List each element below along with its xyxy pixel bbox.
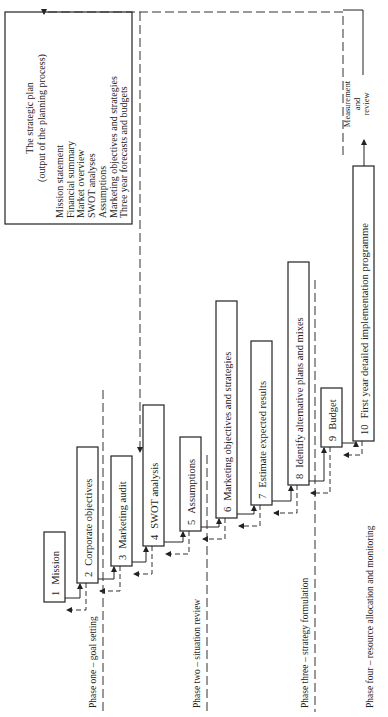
forward-connector (272, 486, 291, 501)
step-10: 10First year detailed implementation pro… (353, 166, 374, 441)
strategic-plan-item: Financial summary (65, 141, 76, 218)
step-number: 9 (327, 436, 338, 441)
step-1: 1Mission (44, 532, 65, 602)
step-6: 6Marketing objectives and strategies (216, 301, 237, 518)
step-label: 2Corporate objectives (83, 479, 94, 577)
step-5: 5Assumptions (180, 437, 201, 531)
step-number: 4 (149, 534, 160, 540)
forward-connector (342, 442, 356, 443)
step-text: Identify alternative plans and mixes (294, 317, 305, 467)
phase-label: Phase two – situation review (192, 599, 202, 708)
forward-connector (164, 532, 183, 542)
step-number: 3 (117, 555, 128, 560)
phase-label: Phase three – strategy formulation (300, 577, 310, 708)
step-number: 8 (294, 474, 305, 479)
strategic-plan-item: Market overview (75, 149, 86, 218)
step-text: Mission (50, 550, 61, 585)
strategic-plan-item: SWOT analyses (86, 153, 97, 218)
feedback-connector (274, 485, 297, 513)
step-8: 8Identify alternative plans and mixes (288, 262, 309, 485)
feedback-connector (134, 546, 152, 574)
step-label: 8Identify alternative plans and mixes (294, 317, 305, 479)
step-text: Budget (327, 399, 338, 429)
step-2: 2Corporate objectives (77, 447, 98, 583)
forward-connector (65, 584, 80, 598)
step-text: SWOT analysis (149, 463, 160, 529)
strategic-plan-title: The strategic plan (24, 82, 35, 154)
step-number: 6 (222, 507, 233, 512)
forward-connector (237, 506, 254, 514)
strategic-plan-box: The strategic plan (output of the planni… (5, 12, 132, 224)
step-label: 4SWOT analysis (149, 463, 160, 540)
step-number: 5 (186, 520, 197, 525)
step-4: 4SWOT analysis (143, 405, 164, 546)
review-line (343, 10, 363, 75)
step-9: 9Budget (321, 388, 342, 447)
feedback-connector (311, 447, 330, 493)
step-label: 3Marketing audit (117, 481, 128, 560)
step-3: 3Marketing audit (111, 456, 132, 566)
step-text: Corporate objectives (83, 479, 94, 566)
phase-label: Phase four – resource allocation and mon… (365, 525, 375, 708)
step-7: 7Estimate expected results (251, 341, 272, 505)
step-text: Assumptions (186, 459, 197, 514)
step-text: Marketing objectives and strategies (222, 352, 233, 501)
feedback-connector (67, 583, 86, 610)
forward-connector (309, 448, 324, 481)
step-label: 10First year detailed implementation pro… (359, 223, 370, 435)
strategic-plan-item: Mission statement (54, 145, 65, 218)
step-text: Estimate expected results (257, 381, 268, 488)
strategic-plan-item: Marketing objectives and strategies (108, 76, 119, 218)
feedback-connector (203, 518, 225, 539)
forward-connector (201, 519, 219, 527)
step-text: Marketing audit (117, 481, 128, 548)
measurement-label: Measurement (342, 80, 352, 127)
step-label: 7Estimate expected results (257, 381, 268, 499)
strategic-plan-item: Three year forecasts and budgets (118, 86, 129, 218)
planning-process-diagram: The strategic plan (output of the planni… (0, 0, 388, 717)
diagram: The strategic plan (output of the planni… (0, 0, 388, 717)
measurement-label: review (361, 92, 371, 116)
measurement-label: and (352, 97, 362, 110)
step-number: 10 (359, 425, 370, 436)
phase-label: Phase one – goal setting (88, 616, 98, 708)
feedback-connector (239, 505, 260, 526)
forward-connector (98, 567, 114, 579)
step-label: 6Marketing objectives and strategies (222, 352, 233, 512)
strategic-plan-subtitle: (output of the planning process) (36, 54, 48, 182)
step-number: 2 (83, 572, 94, 577)
step-number: 7 (257, 494, 268, 499)
strategic-plan-item: Assumptions (97, 166, 108, 218)
step-number: 1 (50, 591, 61, 596)
forward-connector (132, 547, 146, 562)
step-text: First year detailed implementation progr… (359, 223, 370, 419)
